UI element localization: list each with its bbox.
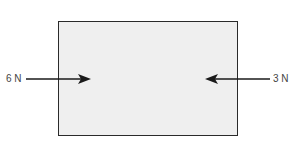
force-label-right: 3 N xyxy=(273,73,289,84)
force-arrows xyxy=(0,0,296,144)
force-label-left: 6 N xyxy=(6,73,22,84)
arrow-left-force xyxy=(26,74,91,84)
arrow-right-force xyxy=(205,74,270,84)
